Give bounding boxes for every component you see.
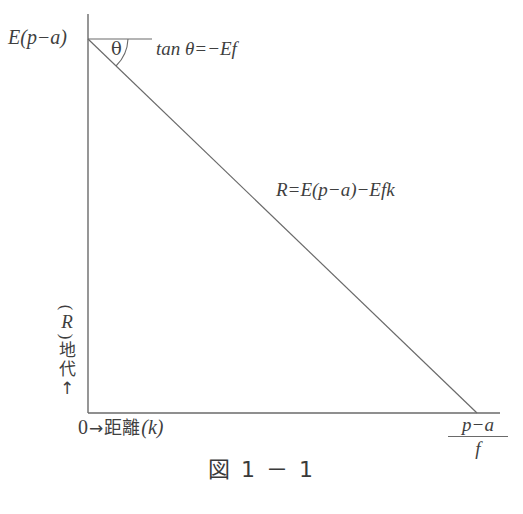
y-axis-arrow-icon: ↑ <box>60 380 74 398</box>
x-intercept-label: p−a f <box>448 414 508 461</box>
x-axis-origin-value: 0 <box>78 417 88 437</box>
rent-gradient-line <box>88 39 477 413</box>
line-equation-label: R=E(p−a)−Efk <box>276 180 395 199</box>
y-axis-symbol: R <box>61 312 73 332</box>
x-intercept-denominator: f <box>448 437 508 461</box>
y-axis-paren-open-glyph: ( <box>62 305 71 311</box>
x-axis-variable: (k) <box>141 417 163 437</box>
figure-caption: 図 1 － 1 <box>0 459 523 481</box>
y-axis-title-char-1: 地 <box>59 341 76 360</box>
angle-theta-label: θ <box>111 40 122 58</box>
slope-equation-label: tan θ=−Ef <box>156 39 237 58</box>
x-axis-label: 0 → 距離 (k) <box>78 417 163 437</box>
figure-container: E(p−a) θ tan θ=−Ef R=E(p−a)−Efk ( R ) 地 … <box>0 0 523 514</box>
y-axis-paren-close-glyph: ) <box>62 334 71 340</box>
y-axis-title-char-2: 代 <box>59 360 76 379</box>
x-axis-arrow-icon: → <box>89 420 103 437</box>
x-axis-title: 距離 <box>104 419 140 437</box>
y-intercept-label: E(p−a) <box>8 27 67 47</box>
y-axis-label: ( R ) 地 代 ↑ <box>50 303 84 398</box>
x-intercept-numerator: p−a <box>448 414 508 437</box>
